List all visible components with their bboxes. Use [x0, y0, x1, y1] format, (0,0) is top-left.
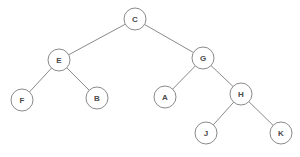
node-label-e: E — [56, 56, 62, 65]
tree-node-h[interactable]: H — [230, 83, 252, 105]
tree-node-f[interactable]: F — [11, 89, 33, 111]
node-label-h: H — [238, 90, 244, 99]
node-label-g: G — [200, 54, 206, 63]
diagram-canvas: CEGFBAHJK — [0, 0, 300, 157]
node-label-j: J — [204, 129, 208, 138]
edge-layer — [29, 24, 273, 125]
tree-edge-e-b — [67, 68, 89, 90]
node-label-b: B — [94, 94, 100, 103]
tree-edge-h-k — [249, 102, 273, 126]
tree-node-j[interactable]: J — [195, 122, 217, 144]
tree-edge-g-h — [211, 66, 233, 87]
binary-tree-diagram: CEGFBAHJK — [0, 0, 300, 157]
tree-edge-e-f — [29, 68, 51, 92]
node-label-k: K — [278, 129, 284, 138]
tree-node-g[interactable]: G — [192, 47, 214, 69]
tree-edge-c-e — [69, 24, 126, 55]
tree-node-a[interactable]: A — [154, 86, 176, 108]
tree-edge-h-j — [213, 102, 233, 125]
tree-node-k[interactable]: K — [270, 122, 292, 144]
node-label-c: C — [132, 15, 138, 24]
node-label-f: F — [20, 96, 25, 105]
node-label-a: A — [162, 93, 168, 102]
tree-edge-c-g — [145, 24, 194, 52]
tree-edge-g-a — [173, 66, 196, 89]
tree-node-c[interactable]: C — [124, 8, 146, 30]
tree-node-b[interactable]: B — [86, 87, 108, 109]
tree-node-e[interactable]: E — [48, 49, 70, 71]
